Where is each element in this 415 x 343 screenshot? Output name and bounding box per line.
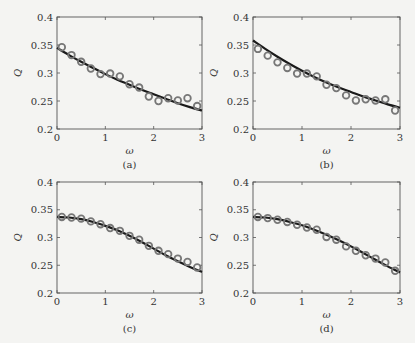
x-tick-label: 2 [348,132,354,143]
y-tick-label: 0.2 [37,288,53,299]
y-tick-label: 0.4 [37,177,53,188]
x-axis-label: ω [125,145,133,156]
y-tick-label: 0.3 [37,68,53,79]
y-axis-label: Q [12,233,23,241]
x-tick-label: 3 [397,296,403,307]
x-tick-label: 1 [299,296,305,307]
data-point-marker [264,52,271,59]
x-tick-label: 3 [199,132,205,143]
y-tick-label: 0.25 [31,260,53,271]
panel-a: 0.20.250.30.350.40123ωQ(a) [12,12,205,171]
y-tick-label: 0.35 [31,40,53,51]
x-tick-label: 3 [397,132,403,143]
y-tick-label: 0.3 [37,232,53,243]
panel-caption: (c) [123,323,137,334]
x-tick-label: 0 [54,296,60,307]
axes-frame [57,17,202,129]
panel-c: 0.20.250.30.350.40123ωQ(c) [12,177,205,335]
x-tick-label: 0 [250,132,256,143]
x-tick-label: 2 [348,296,354,307]
y-tick-label: 0.25 [227,260,249,271]
x-tick-label: 0 [54,132,60,143]
y-axis-label: Q [208,233,219,241]
x-tick-label: 2 [150,132,156,143]
panel-caption: (a) [123,159,137,170]
figure: 0.20.250.30.350.40123ωQ(a)0.20.250.30.35… [0,0,415,343]
data-point-marker [155,98,162,105]
x-tick-label: 2 [150,296,156,307]
data-point-marker [294,70,301,77]
data-point-marker [117,73,124,80]
axes-frame [57,182,202,293]
y-tick-label: 0.35 [31,204,53,215]
axes-frame [253,182,400,293]
panel-d: 0.20.250.30.350.40123ωQ(d) [208,177,403,335]
data-point-marker [274,59,281,66]
x-tick-label: 1 [299,132,305,143]
x-axis-label: ω [322,309,330,320]
y-tick-label: 0.35 [227,204,249,215]
y-tick-label: 0.2 [37,124,53,135]
data-point-marker [284,65,291,72]
data-point-marker [382,96,389,103]
y-tick-label: 0.4 [233,177,249,188]
y-axis-label: Q [12,69,23,77]
y-tick-label: 0.3 [233,232,249,243]
x-axis-label: ω [322,145,330,156]
data-point-marker [392,107,399,114]
x-axis-label: ω [125,309,133,320]
panel-b: 0.20.250.30.350.40123ωQ(b) [208,12,403,171]
panel-caption: (d) [319,323,333,334]
y-tick-label: 0.4 [233,12,249,23]
x-tick-label: 0 [250,296,256,307]
x-tick-label: 1 [102,132,108,143]
data-point-marker [184,95,191,102]
axes-frame [253,17,400,129]
y-axis-label: Q [208,69,219,77]
x-tick-label: 1 [102,296,108,307]
y-tick-label: 0.25 [227,96,249,107]
y-tick-label: 0.25 [31,96,53,107]
panel-caption: (b) [319,159,333,170]
theory-curve [253,217,400,273]
theory-curve [57,217,202,272]
x-tick-label: 3 [199,296,205,307]
y-tick-label: 0.2 [233,124,249,135]
data-point-marker [146,93,153,100]
y-tick-label: 0.2 [233,288,249,299]
data-point-marker [343,92,350,99]
data-point-marker [255,46,262,53]
y-tick-label: 0.35 [227,40,249,51]
y-tick-label: 0.4 [37,12,53,23]
data-point-marker [184,259,191,266]
y-tick-label: 0.3 [233,68,249,79]
data-point-marker [353,97,360,104]
